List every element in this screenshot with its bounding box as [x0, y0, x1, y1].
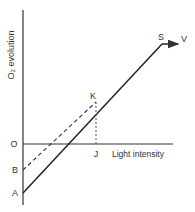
label-A: A [12, 188, 18, 198]
solid-line-A-to-S [23, 44, 162, 193]
dashed-line-B-to-K [23, 102, 96, 170]
y-axis-label: O₂ evolution [6, 30, 16, 79]
label-V: V [181, 34, 187, 44]
label-B: B [12, 165, 18, 175]
label-K: K [90, 91, 96, 101]
x-axis-label: Light intensity [112, 149, 165, 159]
label-origin-O: O [10, 139, 17, 149]
photosynthesis-light-curve-diagram: O₂ evolution Light intensity O B A K J S… [0, 0, 195, 212]
label-S: S [158, 32, 164, 42]
label-J: J [94, 149, 99, 159]
